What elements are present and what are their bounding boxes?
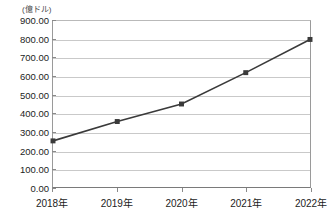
y-axis-tick-label: 700.00 <box>0 52 49 63</box>
y-axis-tick-mark <box>52 113 56 114</box>
y-axis-tick-mark <box>52 76 56 77</box>
data-point-marker <box>51 138 56 143</box>
data-point-marker <box>179 102 184 107</box>
y-axis-tick-mark <box>52 132 56 133</box>
y-axis-tick-label: 800.00 <box>0 33 49 44</box>
x-axis-tick-mark <box>117 188 118 192</box>
chart-title <box>8 0 320 2</box>
y-axis-tick-mark <box>52 169 56 170</box>
data-point-marker <box>115 119 120 124</box>
x-axis-tick-mark <box>182 188 183 192</box>
data-point-marker <box>243 70 248 75</box>
y-axis-tick-label: 100.00 <box>0 164 49 175</box>
line-chart: (億ドル) 900.00800.00700.00600.00500.00400.… <box>0 0 328 214</box>
y-axis-tick-label: 300.00 <box>0 127 49 138</box>
y-axis-tick-label: 500.00 <box>0 89 49 100</box>
y-axis-tick-mark <box>52 95 56 96</box>
y-axis-tick-label: 0.00 <box>0 183 49 194</box>
y-axis-tick-mark <box>52 20 56 21</box>
y-axis-unit-label: (億ドル) <box>22 3 51 14</box>
y-axis-tick-labels: 900.00800.00700.00600.00500.00400.00300.… <box>0 20 49 188</box>
y-axis-tick-label: 200.00 <box>0 145 49 156</box>
x-axis-tick-mark <box>246 188 247 192</box>
plot-area <box>52 20 311 188</box>
x-axis-tick-mark <box>311 188 312 192</box>
y-axis-tick-label: 600.00 <box>0 71 49 82</box>
x-axis-tick-label: 2018年 <box>36 195 68 210</box>
y-axis-tick-mark <box>52 151 56 152</box>
y-axis-tick-mark <box>52 39 56 40</box>
y-axis-tick-label: 900.00 <box>0 15 49 26</box>
series-line-group <box>53 21 310 187</box>
x-axis-tick-label: 2019年 <box>101 195 133 210</box>
x-axis-tick-label: 2020年 <box>165 195 197 210</box>
series-markers <box>51 37 313 143</box>
x-axis-tick-label: 2022年 <box>295 195 327 210</box>
y-axis-tick-label: 400.00 <box>0 108 49 119</box>
series-line <box>53 39 310 140</box>
data-point-marker <box>308 37 313 42</box>
x-axis-tick-mark <box>52 188 53 192</box>
x-axis-tick-label: 2021年 <box>230 195 262 210</box>
y-axis-tick-mark <box>52 57 56 58</box>
